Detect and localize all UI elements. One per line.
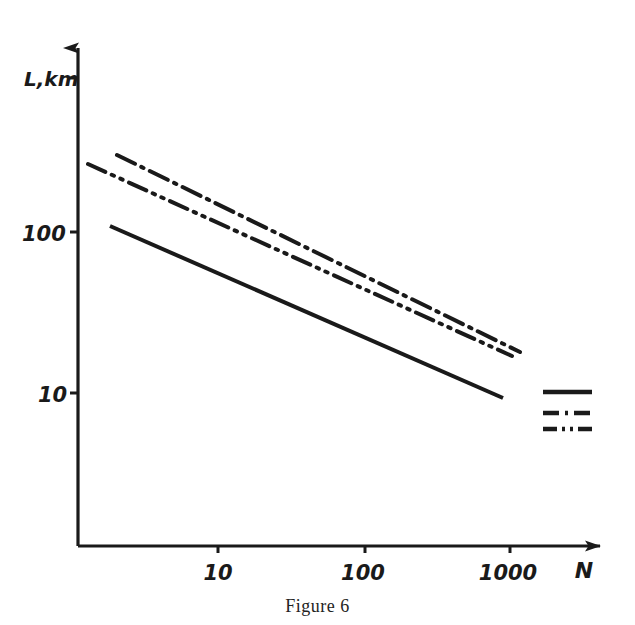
figure-canvas: L,km 100 10 10 100 1000 N <box>0 0 635 625</box>
x-tick-label-10: 10 <box>203 561 232 585</box>
figure-caption: Figure 6 <box>0 596 635 617</box>
x-axis-label: N <box>575 558 593 583</box>
y-tick-label-10: 10 <box>38 383 67 407</box>
series-curve-3-dash-dot-dot <box>88 164 512 356</box>
x-tick-label-1000: 1000 <box>479 561 537 585</box>
y-axis: L,km 100 10 <box>22 48 78 546</box>
series-curve-1-solid <box>110 226 503 398</box>
legend <box>543 392 592 429</box>
x-axis: 10 100 1000 N <box>78 546 600 585</box>
plot-curves <box>88 155 520 398</box>
figure-page: L,km 100 10 10 100 1000 N Figure <box>0 0 635 625</box>
y-tick-label-100: 100 <box>22 222 66 246</box>
y-axis-label: L,km <box>24 67 78 91</box>
x-tick-label-100: 100 <box>341 561 385 585</box>
